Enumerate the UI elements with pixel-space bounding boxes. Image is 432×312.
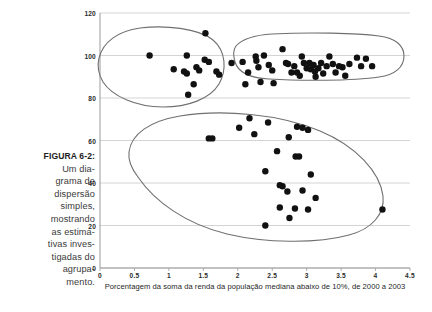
scatter-point: [269, 67, 275, 73]
scatter-point: [184, 70, 190, 76]
scatter-point: [288, 69, 294, 75]
scatter-point: [261, 52, 267, 58]
y-tick-label: 120: [84, 10, 96, 17]
scatter-point: [279, 183, 285, 189]
scatter-point: [277, 204, 283, 210]
scatter-point: [292, 205, 298, 211]
scatter-point: [339, 64, 345, 70]
scatter-point: [332, 69, 338, 75]
scatter-point: [245, 69, 251, 75]
y-tick-label: 80: [88, 95, 96, 102]
scatter-plot-canvas: [0, 0, 432, 312]
x-tick-label: 3: [292, 272, 322, 279]
scatter-point: [320, 70, 326, 76]
x-tick-label: 4: [361, 272, 391, 279]
scatter-point: [379, 206, 385, 212]
scatter-point: [308, 171, 314, 177]
scatter-point: [253, 58, 259, 64]
scatter-point: [262, 222, 268, 228]
x-tick-label: 4.5: [395, 272, 425, 279]
scatter-point: [274, 148, 280, 154]
x-tick-label: 2: [223, 272, 253, 279]
scatter-point: [185, 92, 191, 98]
scatter-point: [305, 127, 311, 133]
scatter-point: [216, 71, 222, 77]
x-tick-label: 1.5: [188, 272, 218, 279]
scatter-point: [369, 63, 375, 69]
scatter-point: [286, 215, 292, 221]
scatter-point: [291, 63, 297, 69]
x-tick-label: 0: [85, 272, 115, 279]
scatter-point: [196, 67, 202, 73]
scatter-point: [305, 206, 311, 212]
scatter-point: [236, 125, 242, 131]
scatter-point: [209, 135, 215, 141]
y-tick-label: 40: [88, 180, 96, 187]
scatter-point: [285, 61, 291, 67]
y-tick-label: 60: [88, 137, 96, 144]
scatter-point: [251, 131, 257, 137]
x-tick-label: 0.5: [119, 272, 149, 279]
scatter-point: [190, 81, 196, 87]
scatter-point: [312, 195, 318, 201]
scatter-point: [246, 115, 252, 121]
scatter-point: [294, 123, 300, 129]
scatter-point: [296, 153, 302, 159]
scatter-point: [270, 80, 276, 86]
y-tick-label: 0: [92, 265, 96, 272]
x-tick-label: 2.5: [257, 272, 287, 279]
scatter-point: [286, 134, 292, 140]
scatter-plot: 020406080100120 00.511.522.533.544.5 Por…: [0, 0, 432, 312]
scatter-point: [171, 66, 177, 72]
scatter-point: [266, 62, 272, 68]
y-tick-label: 100: [84, 52, 96, 59]
cluster-outline-1: [98, 27, 224, 107]
scatter-point: [262, 168, 268, 174]
x-axis-title: Porcentagem da soma da renda da populaçã…: [100, 282, 410, 291]
scatter-point: [358, 63, 364, 69]
scatter-point: [297, 72, 303, 78]
cluster-outline-2: [234, 33, 404, 80]
scatter-point: [326, 53, 332, 59]
scatter-point: [146, 52, 152, 58]
scatter-point: [257, 79, 263, 85]
scatter-point: [299, 125, 305, 131]
scatter-point: [184, 52, 190, 58]
scatter-point: [330, 61, 336, 67]
scatter-point: [354, 54, 360, 60]
scatter-point: [342, 72, 348, 78]
scatter-point: [255, 64, 261, 70]
scatter-point: [239, 59, 245, 65]
scatter-point: [312, 74, 318, 80]
x-tick-label: 3.5: [326, 272, 356, 279]
scatter-point: [206, 59, 212, 65]
figure-container: FIGURA 6-2: Um dia- grama de dispersão s…: [0, 0, 432, 312]
scatter-point: [202, 30, 208, 36]
scatter-point: [299, 53, 305, 59]
scatter-point: [279, 46, 285, 52]
scatter-point: [284, 188, 290, 194]
y-tick-label: 20: [88, 222, 96, 229]
scatter-point: [346, 61, 352, 67]
scatter-point: [228, 60, 234, 66]
data-points: [146, 30, 385, 229]
scatter-point: [323, 63, 329, 69]
scatter-point: [318, 60, 324, 66]
x-tick-label: 1: [154, 272, 184, 279]
scatter-point: [242, 81, 248, 87]
scatter-point: [363, 55, 369, 61]
scatter-point: [299, 187, 305, 193]
scatter-point: [265, 119, 271, 125]
